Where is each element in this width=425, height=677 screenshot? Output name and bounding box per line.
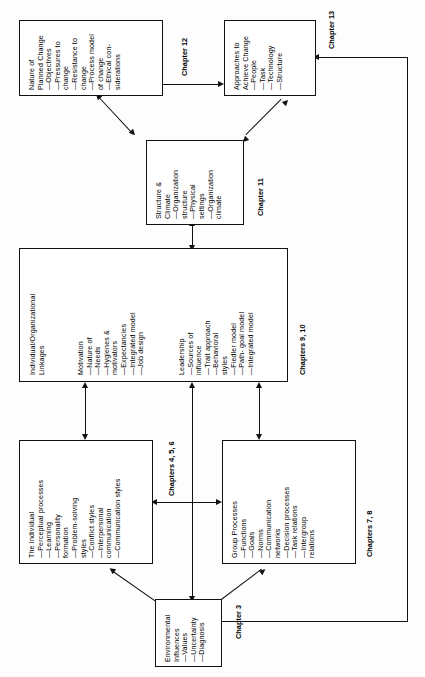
node-approaches-to-achieve-change-text: Approaches to Achieve Change —People —Ta… (233, 36, 285, 90)
connector-ch13-horizontal (318, 57, 408, 58)
node-linkages-heading: Individual/Organizational Linkages (29, 294, 46, 375)
node-linkages-leadership-text: Leadership —Sources of influence —Trait … (178, 312, 255, 375)
connector-right-spine (407, 57, 408, 622)
connector-environment-spine (192, 387, 193, 599)
connector-group-to-linkages (259, 387, 260, 437)
label-chapter-12: Chapter 12 (181, 38, 190, 76)
label-chapter-11: Chapter 11 (257, 178, 266, 216)
node-environmental-influences[interactable]: Environmental Influences —Values —Uncert… (155, 599, 222, 667)
node-group-processes[interactable]: Group Processes —Functions —Goals —Norms… (222, 440, 356, 564)
connector-structure-to-nature (99, 97, 134, 134)
arrowhead-structure-to-approaches-up (282, 98, 290, 106)
arrowhead-environment-spine-up (189, 382, 195, 388)
node-individual-organizational-linkages[interactable]: Individual/Organizational Linkages Motiv… (19, 248, 288, 382)
node-group-processes-text: Group Processes —Functions —Goals —Norms… (231, 487, 317, 558)
label-chapter-13: Chapter 13 (328, 11, 337, 49)
connector-bottom-return (215, 621, 407, 622)
connector-ch4-5-6 (156, 502, 218, 503)
label-chapters-7-8: Chapters 7, 8 (366, 511, 375, 557)
label-chapter-3: Chapter 3 (235, 605, 244, 639)
node-structure-and-climate-text: Structure & Climate —Organization struct… (155, 170, 224, 219)
node-structure-and-climate[interactable]: Structure & Climate —Organization struct… (146, 140, 244, 225)
node-nature-of-planned-change-text: Nature of Planned Change —Objectives —Pr… (28, 34, 123, 90)
node-nature-of-planned-change[interactable]: Nature of Planned Change —Objectives —Pr… (19, 20, 163, 96)
node-environmental-influences-text: Environmental Influences —Values —Uncert… (164, 615, 207, 662)
arrowhead-individual-to-linkages-up (82, 382, 88, 388)
arrowhead-environment-to-group-up (259, 567, 267, 575)
node-linkages-motivation-text: Motivation —Nature of —Needs —Hygienes &… (77, 312, 146, 375)
connector-individual-to-linkages (85, 387, 86, 437)
node-the-individual-text: The Individual —Perceptual processes —Le… (28, 479, 123, 558)
label-chapters-4-5-6: Chapters 4, 5, 6 (168, 441, 177, 496)
label-chapters-9-10: Chapters 9, 10 (299, 324, 308, 375)
diagram-canvas: Nature of Planned Change —Objectives —Pr… (0, 0, 425, 677)
connector-ch12 (160, 84, 220, 85)
arrowhead-group-to-linkages-up (256, 382, 262, 388)
connector-structure-to-approaches (246, 99, 282, 135)
node-approaches-to-achieve-change[interactable]: Approaches to Achieve Change —People —Ta… (224, 20, 316, 96)
arrowhead-structure-to-nature-down (129, 129, 137, 137)
node-the-individual[interactable]: The Individual —Perceptual processes —Le… (19, 440, 153, 564)
